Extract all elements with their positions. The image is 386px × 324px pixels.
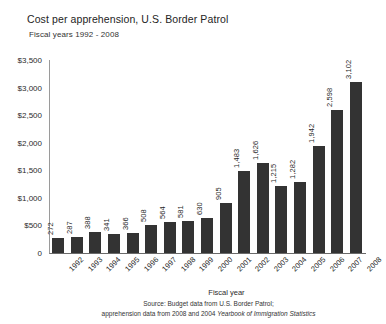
x-tick-label: 2008 — [365, 255, 383, 273]
y-tick-label: $1,000 — [18, 193, 42, 202]
bar — [238, 171, 250, 253]
bar — [89, 232, 101, 253]
bar-item: 630 — [198, 60, 217, 253]
bar — [164, 222, 176, 253]
bar-value-label: 2,598 — [325, 87, 334, 106]
bar — [108, 234, 120, 253]
bar-value-label: 508 — [139, 209, 148, 222]
x-tick-label: 1994 — [104, 255, 122, 273]
bar-value-label: 388 — [83, 216, 92, 229]
y-tick-label: $500 — [24, 221, 42, 230]
bar — [313, 146, 325, 253]
bar-value-label: 1,483 — [232, 149, 241, 168]
source-line-2-prefix: apprehension data from 2008 and 2004 — [102, 310, 218, 317]
chart-title: Cost per apprehension, U.S. Border Patro… — [27, 13, 228, 25]
bar-value-label: 287 — [64, 221, 73, 234]
x-tick-label: 2004 — [290, 255, 308, 273]
source-note: Source: Budget data from U.S. Border Pat… — [0, 299, 381, 318]
bar-item: 508 — [142, 60, 161, 253]
bar-item: 1,626 — [253, 60, 272, 253]
bar — [127, 233, 139, 253]
x-tick-label: 1995 — [123, 255, 141, 273]
bar-series: 2722873883413665085645816309051,4831,626… — [49, 60, 365, 253]
bar — [145, 225, 157, 253]
bar-item: 1,282 — [291, 60, 310, 253]
bar-value-label: 905 — [213, 187, 222, 200]
x-tick-label: 2006 — [328, 255, 346, 273]
x-axis-title: Fiscal year — [36, 288, 386, 297]
bar — [220, 203, 232, 253]
bar — [71, 237, 83, 253]
x-tick-label: 1992 — [67, 255, 85, 273]
bar-value-label: 366 — [120, 217, 129, 230]
bar — [257, 163, 269, 253]
x-tick-label: 1993 — [86, 255, 104, 273]
bar — [294, 182, 306, 253]
bar-value-label: 341 — [102, 218, 111, 231]
bar-value-label: 630 — [194, 202, 203, 215]
y-tick-label: $3,500 — [18, 56, 42, 65]
bar-value-label: 581 — [176, 205, 185, 218]
bar — [350, 82, 362, 253]
bar — [52, 238, 64, 253]
y-tick-label: $2,500 — [18, 111, 42, 120]
source-reference-title: Yearbook of Immigration Statistics — [217, 310, 315, 317]
x-tick-label: 1998 — [179, 255, 197, 273]
chart-subtitle: Fiscal years 1992 - 2008 — [29, 30, 119, 39]
y-axis: 0$500$1,000$1,500$2,000$2,500$3,000$3,50… — [0, 60, 46, 253]
bar-value-label: 1,282 — [287, 160, 296, 179]
bar-value-label: 564 — [157, 206, 166, 219]
bar — [201, 218, 213, 253]
bar-item: 2,598 — [328, 60, 347, 253]
x-tick-label: 2000 — [216, 255, 234, 273]
bar-value-label: 1,942 — [306, 124, 315, 143]
x-tick-label: 1999 — [197, 255, 215, 273]
x-tick-label: 2003 — [272, 255, 290, 273]
bar-value-label: 272 — [46, 222, 55, 235]
y-tick-label: 0 — [38, 249, 42, 258]
bar — [275, 186, 287, 253]
bar — [331, 110, 343, 253]
y-tick-label: $3,000 — [18, 83, 42, 92]
bar-value-label: 1,215 — [269, 164, 278, 183]
bar — [182, 221, 194, 253]
bar-item: 1,215 — [272, 60, 291, 253]
source-line-1: Source: Budget data from U.S. Border Pat… — [0, 299, 381, 309]
bar-item: 581 — [179, 60, 198, 253]
x-tick-label: 2005 — [309, 255, 327, 273]
bar-value-label: 3,102 — [343, 60, 352, 79]
bar-value-label: 1,626 — [250, 141, 259, 160]
x-tick-label: 2002 — [253, 255, 271, 273]
x-tick-label: 1997 — [160, 255, 178, 273]
x-tick-label: 2007 — [346, 255, 364, 273]
y-tick-label: $2,000 — [18, 138, 42, 147]
source-line-2: apprehension data from 2008 and 2004 Yea… — [0, 309, 381, 319]
bar-item: 3,102 — [346, 60, 365, 253]
bar-item: 564 — [161, 60, 180, 253]
x-tick-label: 1996 — [142, 255, 160, 273]
x-axis: 1992199319941995199619971998199920002001… — [49, 255, 365, 285]
bar-item: 366 — [123, 60, 142, 253]
x-tick-label: 2001 — [235, 255, 253, 273]
y-tick-label: $1,500 — [18, 166, 42, 175]
